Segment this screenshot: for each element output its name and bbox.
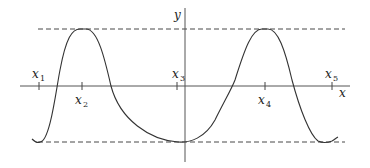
y-axis-label: y: [173, 8, 181, 22]
label-x1: x 1: [32, 67, 45, 83]
svg-text:2: 2: [83, 100, 88, 109]
label-x2: x 2: [75, 93, 88, 109]
svg-text:x: x: [32, 67, 39, 81]
svg-text:3: 3: [180, 74, 185, 83]
label-x4: x 4: [258, 93, 271, 109]
x-axis-label: x: [339, 86, 346, 100]
label-x3: x 3: [172, 67, 185, 83]
svg-text:x: x: [258, 93, 265, 107]
graph-canvas: y x x 1 x 2 x 3 x 4 x 5: [0, 0, 370, 168]
svg-text:4: 4: [266, 100, 271, 109]
svg-text:1: 1: [40, 74, 45, 83]
svg-text:x: x: [172, 67, 179, 81]
svg-text:x: x: [325, 67, 332, 81]
function-graph-figure: y x x 1 x 2 x 3 x 4 x 5: [0, 0, 370, 168]
label-x5: x 5: [325, 67, 338, 83]
svg-text:5: 5: [333, 74, 338, 83]
svg-text:x: x: [75, 93, 82, 107]
